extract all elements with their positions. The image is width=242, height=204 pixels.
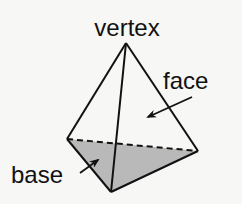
edge-apex-right bbox=[126, 43, 198, 151]
face-arrow-icon bbox=[148, 97, 192, 117]
base-label: base bbox=[11, 161, 63, 188]
pyramid-diagram: vertex face base bbox=[0, 0, 242, 204]
vertex-label: vertex bbox=[94, 14, 159, 41]
base-face bbox=[67, 139, 198, 192]
face-label: face bbox=[163, 67, 208, 94]
pyramid-figure: vertex face base bbox=[0, 0, 242, 204]
